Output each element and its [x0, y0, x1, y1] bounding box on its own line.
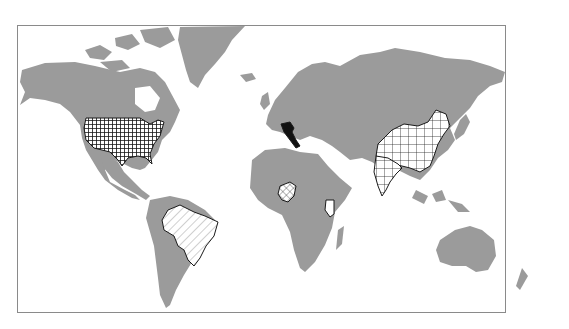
world-map: [0, 0, 569, 329]
land-australia: [436, 226, 496, 272]
land-uk: [260, 92, 270, 110]
land-greenland: [178, 26, 245, 88]
land-iceland: [240, 73, 256, 82]
land-madagascar: [336, 226, 344, 250]
land-africa: [250, 148, 352, 272]
land-new-zealand: [516, 268, 528, 290]
land-arctic-islands: [85, 27, 175, 72]
land-indonesia: [412, 190, 470, 212]
